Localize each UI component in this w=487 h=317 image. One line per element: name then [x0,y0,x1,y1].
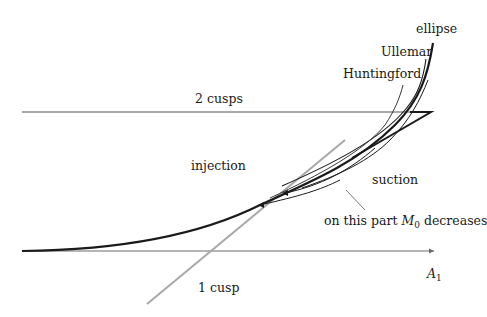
one-cusp-label: 1 cusp [198,282,239,295]
arrow-left-icon [258,202,264,208]
a1-axis-label: A1 [427,268,442,281]
m0-pointer-line [346,190,365,210]
cusp-triangle [352,112,431,158]
two-cusps-label: 2 cusps [195,93,243,106]
a1-axis-arrow-icon [429,249,434,254]
m0-decreases-label: on this part M0 decreases [324,215,487,228]
a1-subscript: 1 [436,273,442,283]
huntingford-label: Huntingford [343,68,421,81]
m0-prefix-text: on this part [324,213,401,228]
one-cusp-boundary-line [147,140,345,304]
a1-variable: A [427,266,436,281]
m0-suffix-text: decreases [420,213,487,228]
ellipse-label: ellipse [416,23,457,36]
m0-variable: M [401,213,414,228]
suction-label: suction [372,174,418,187]
injection-label: injection [191,160,246,173]
ullemar-label: Ullemar [381,46,432,59]
